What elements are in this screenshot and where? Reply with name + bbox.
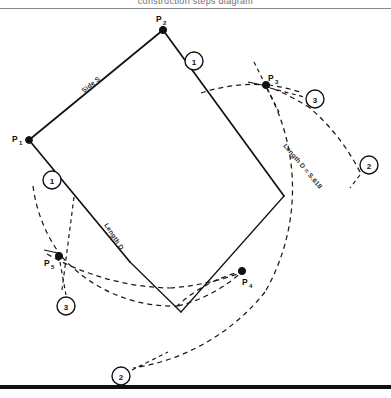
bottom-divider-rule <box>0 385 391 389</box>
step-badge-1-left-number: 1 <box>50 177 55 186</box>
point-p1[interactable]: P 1 <box>12 134 32 146</box>
step-badge-2-right-number: 2 <box>367 162 372 171</box>
point-p1-dot <box>26 137 33 144</box>
point-p4[interactable]: P 4 <box>238 267 253 289</box>
point-p2-label: P <box>156 14 162 24</box>
step-badge-3-left[interactable]: 3 <box>57 297 75 315</box>
annotation-length-d-right-text: Length D = S.618 <box>281 142 324 191</box>
point-p2-dot <box>159 26 166 33</box>
point-p5-subscript: 5 <box>51 264 55 270</box>
point-p2[interactable]: P 2 <box>156 14 167 34</box>
step-badge-1-right[interactable]: 1 <box>185 52 203 70</box>
leader-badge2-bottom <box>132 352 168 370</box>
annotation-length-d-left-text: Length D <box>102 222 125 252</box>
point-p5[interactable]: P 5 <box>44 252 63 270</box>
point-p5-label: P <box>44 258 50 268</box>
point-p3[interactable]: P 3 <box>262 73 279 89</box>
step-badge-2-right[interactable]: 2 <box>360 156 378 174</box>
point-p4-label: P <box>242 277 248 287</box>
tick-left-of-p5 <box>44 250 58 253</box>
segment-p2-ray-extension <box>181 196 284 312</box>
point-p1-label: P <box>12 134 18 144</box>
geometric-construction-diagram: Side S Length D Length D = S.618 P 1 P 2… <box>0 0 391 398</box>
point-p3-label: P <box>268 73 274 83</box>
segment-p1-ray-extension <box>130 262 181 312</box>
step-badge-3-right-number: 3 <box>313 96 318 105</box>
step-badge-2-bottom[interactable]: 2 <box>112 367 130 385</box>
segment-side-s <box>29 30 163 140</box>
point-p4-subscript: 4 <box>249 283 253 289</box>
arc-from-p2 <box>133 86 360 368</box>
annotation-side-s-text: Side S <box>80 75 101 94</box>
point-p2-subscript: 2 <box>163 20 167 26</box>
step-badge-1-right-number: 1 <box>192 58 197 67</box>
annotation-length-d-right: Length D = S.618 <box>281 142 324 191</box>
point-p3-subscript: 3 <box>275 79 279 85</box>
step-badge-2-bottom-number: 2 <box>119 373 124 382</box>
arc-chord-p3-p5 <box>47 84 300 288</box>
segment-p2-ray <box>163 30 284 196</box>
segment-p1-ray <box>29 140 130 262</box>
point-p4-dot <box>238 267 245 274</box>
figure-root: construction steps diagram <box>0 0 391 398</box>
cross-ticks-p5 <box>62 197 74 290</box>
step-badge-3-left-number: 3 <box>64 303 69 312</box>
point-p1-subscript: 1 <box>19 140 23 146</box>
point-p5-dot <box>55 252 62 259</box>
annotation-side-s: Side S <box>80 75 101 94</box>
step-badge-3-right[interactable]: 3 <box>306 90 324 108</box>
leader-badge2-right <box>350 175 360 188</box>
annotation-length-d-left: Length D <box>102 222 125 252</box>
step-badge-1-left[interactable]: 1 <box>43 171 61 189</box>
